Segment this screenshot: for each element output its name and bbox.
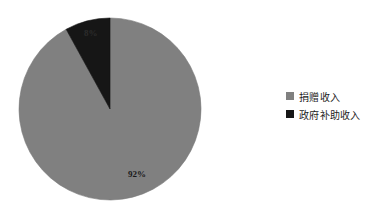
legend-swatch-subsidy-icon [286,110,294,118]
pie-data-label-donation: 92% [128,170,146,179]
chart-legend: 捐赠收入 政府补助收入 [286,88,386,124]
legend-item-subsidy[interactable]: 政府补助收入 [286,106,386,122]
pie-data-label-subsidy: 8% [84,29,98,38]
legend-item-donation[interactable]: 捐赠收入 [286,88,386,104]
legend-label-subsidy: 政府补助收入 [299,107,361,122]
legend-label-donation: 捐赠收入 [299,89,340,104]
pie-graphic [0,0,230,218]
legend-swatch-donation-icon [286,92,294,100]
pie-plot-area: 92% 8% [0,0,230,218]
pie-chart-figure: 92% 8% 捐赠收入 政府补助收入 [0,0,389,218]
